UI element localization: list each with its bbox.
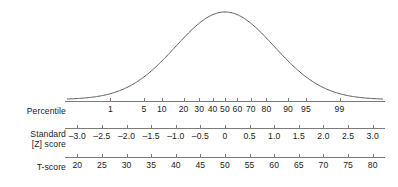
tick-label: –2.5 [93,131,110,141]
tick-label: 30 [122,160,132,170]
tick-mark [200,125,201,128]
row-label-zscore-line1: Standard [30,129,66,139]
tick-mark [184,98,185,101]
tick-label: 50 [220,104,230,114]
tick-label: 80 [368,160,378,170]
tick-label: –1.0 [167,131,184,141]
tick-mark [306,98,307,101]
tick-label: 45 [195,160,205,170]
tick-label: 0 [223,131,228,141]
tick-mark [251,98,252,101]
curve-path [67,12,382,99]
row-label-percentile: Percentile [27,106,66,116]
tick-label: 60 [269,160,279,170]
tick-label: –1.5 [143,131,160,141]
tick-label: –0.5 [192,131,209,141]
tick-label: 70 [319,160,329,170]
tick-mark [151,154,152,157]
tick-mark [144,98,145,101]
tick-mark [323,125,324,128]
tick-mark [250,154,251,157]
tick-label: 50 [220,160,230,170]
tick-label: –2.0 [118,131,135,141]
row-label-zscore-line2: [Z] score [32,139,66,149]
tick-label: 1.5 [293,131,305,141]
tick-mark [373,125,374,128]
tick-mark [299,125,300,128]
tick-label: 95 [301,104,311,114]
tick-label: 80 [262,104,272,114]
normal-curve-score-chart: Percentile 151020304050607080909599 Stan… [0,0,398,187]
tick-mark [127,154,128,157]
tick-mark [373,154,374,157]
tick-mark [176,154,177,157]
axis-rule-zscore [65,128,385,129]
tick-label: 90 [283,104,293,114]
tick-mark [200,154,201,157]
tick-mark [199,98,200,101]
tick-mark [225,125,226,128]
tick-mark [102,154,103,157]
tick-label: 40 [171,160,181,170]
tick-label: 20 [72,160,82,170]
tick-mark [225,154,226,157]
tick-label: 99 [335,104,345,114]
tick-mark [225,98,226,101]
tick-mark [77,154,78,157]
tick-mark [323,154,324,157]
tick-mark [266,98,267,101]
axis-tscore: 20253035404550556065707580 [65,157,385,175]
tick-label: 2.5 [342,131,354,141]
row-label-percentile-line1: Percentile [27,106,66,116]
row-label-tscore-line1: T-score [37,162,66,172]
tick-label: 65 [294,160,304,170]
tick-mark [110,98,111,101]
row-label-zscore: Standard [Z] score [30,129,66,150]
tick-label: 25 [97,160,107,170]
tick-mark [299,154,300,157]
row-label-tscore: T-score [37,162,66,172]
scale-row-zscore: Standard [Z] score –3.0–2.5–2.0–1.5–1.0–… [0,128,398,150]
tick-label: 2.0 [317,131,329,141]
tick-label: 10 [157,104,167,114]
scale-row-tscore: T-score 20253035404550556065707580 [0,157,398,175]
tick-mark [348,125,349,128]
tick-label: 35 [146,160,156,170]
tick-mark [213,98,214,101]
tick-mark [340,98,341,101]
tick-mark [274,125,275,128]
tick-label: 20 [179,104,189,114]
axis-percentile: 151020304050607080909599 [65,101,385,119]
tick-label: 70 [246,104,256,114]
tick-label: 30 [194,104,204,114]
tick-mark [102,125,103,128]
tick-mark [176,125,177,128]
tick-mark [151,125,152,128]
tick-label: –3.0 [69,131,86,141]
tick-label: 3.0 [367,131,379,141]
axis-rule-percentile [65,101,385,102]
tick-label: 75 [343,160,353,170]
tick-mark [127,125,128,128]
tick-label: 40 [208,104,218,114]
axis-zscore: –3.0–2.5–2.0–1.5–1.0–0.500.51.01.52.02.5… [65,128,385,150]
tick-mark [162,98,163,101]
tick-mark [237,98,238,101]
scale-row-percentile: Percentile 151020304050607080909599 [0,101,398,119]
tick-mark [288,98,289,101]
tick-mark [274,154,275,157]
normal-distribution-curve [0,0,398,102]
tick-label: 60 [233,104,243,114]
tick-label: 5 [142,104,147,114]
tick-label: 1 [108,104,113,114]
tick-label: 55 [245,160,255,170]
tick-mark [77,125,78,128]
tick-mark [348,154,349,157]
bell-curve-area [0,0,398,102]
tick-label: 1.0 [268,131,280,141]
tick-label: 0.5 [243,131,255,141]
tick-mark [250,125,251,128]
axis-rule-tscore [65,157,385,158]
